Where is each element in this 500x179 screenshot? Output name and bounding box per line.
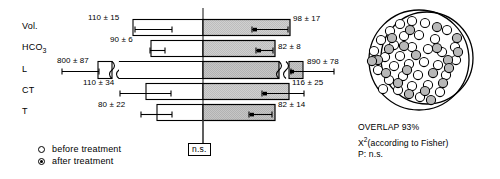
row-label-l-text: L (22, 64, 27, 74)
bar-before-l (119, 62, 203, 79)
bar-after-ct (203, 84, 289, 100)
row-label-ct-text: CT (22, 85, 34, 95)
overlap-percent-line: OVERLAP 93% (358, 122, 448, 134)
bar-after-l (203, 62, 279, 79)
legend-item-after: after treatment (38, 155, 121, 167)
row-label-l: L (22, 64, 27, 74)
legend-label-after: after treatment (52, 155, 114, 167)
row-label-hco3: HCO3 (22, 42, 47, 54)
bar-before-t (157, 105, 203, 121)
open-circle-icon (38, 146, 45, 153)
value-after-vol: 98 ± 17 (293, 14, 320, 23)
bar-row-l (62, 62, 334, 79)
row-label-t: T (22, 106, 28, 116)
legend-item-before: before treatment (38, 143, 121, 155)
axis-break-right-l-outer (284, 62, 289, 79)
bar-before-vol (133, 20, 203, 36)
errorbar-before-l (62, 69, 99, 75)
venn-dots (367, 16, 462, 104)
overlap-caption: OVERLAP 93% X2(according to Fisher) P: n… (358, 122, 448, 160)
bar-after-vol (203, 20, 290, 36)
row-label-vol: Vol. (22, 21, 38, 31)
row-label-t-text: T (22, 106, 28, 116)
legend-label-before: before treatment (52, 143, 121, 155)
bar-before-hco3 (151, 41, 203, 57)
significance-badge: n.s. (188, 143, 211, 156)
chisq-line: X2(according to Fisher) (358, 134, 448, 149)
value-before-vol: 110 ± 15 (88, 13, 119, 22)
row-label-hco3-text: HCO (22, 42, 43, 52)
chisq-rest: (according to Fisher) (368, 137, 449, 147)
value-before-ct: 110 ± 34 (83, 78, 114, 87)
overlap-venn-diagram (367, 10, 473, 110)
value-after-l: 890 ± 78 (307, 57, 339, 66)
bar-after-t (203, 105, 275, 121)
value-before-hco3: 90 ± 6 (110, 35, 133, 44)
bar-after-hco3 (203, 41, 275, 57)
value-after-t: 82 ± 14 (278, 100, 305, 109)
p-value-line: P: n.s. (358, 149, 448, 161)
value-before-t: 80 ± 22 (98, 100, 125, 109)
bar-before-ct (146, 84, 203, 100)
legend: before treatment after treatment (38, 143, 121, 167)
bar-row-ct (120, 84, 304, 100)
value-before-l: 800 ± 87 (57, 56, 89, 65)
bar-row-t (141, 105, 275, 121)
dotted-circle-icon (38, 158, 45, 165)
row-label-hco3-sub: 3 (43, 47, 47, 54)
value-after-ct: 116 ± 25 (292, 78, 323, 87)
value-after-hco3: 82 ± 8 (278, 42, 301, 51)
row-label-vol-text: Vol. (22, 21, 38, 31)
bar-row-hco3 (150, 41, 275, 57)
bar-row-vol (133, 20, 290, 36)
row-label-ct: CT (22, 85, 34, 95)
